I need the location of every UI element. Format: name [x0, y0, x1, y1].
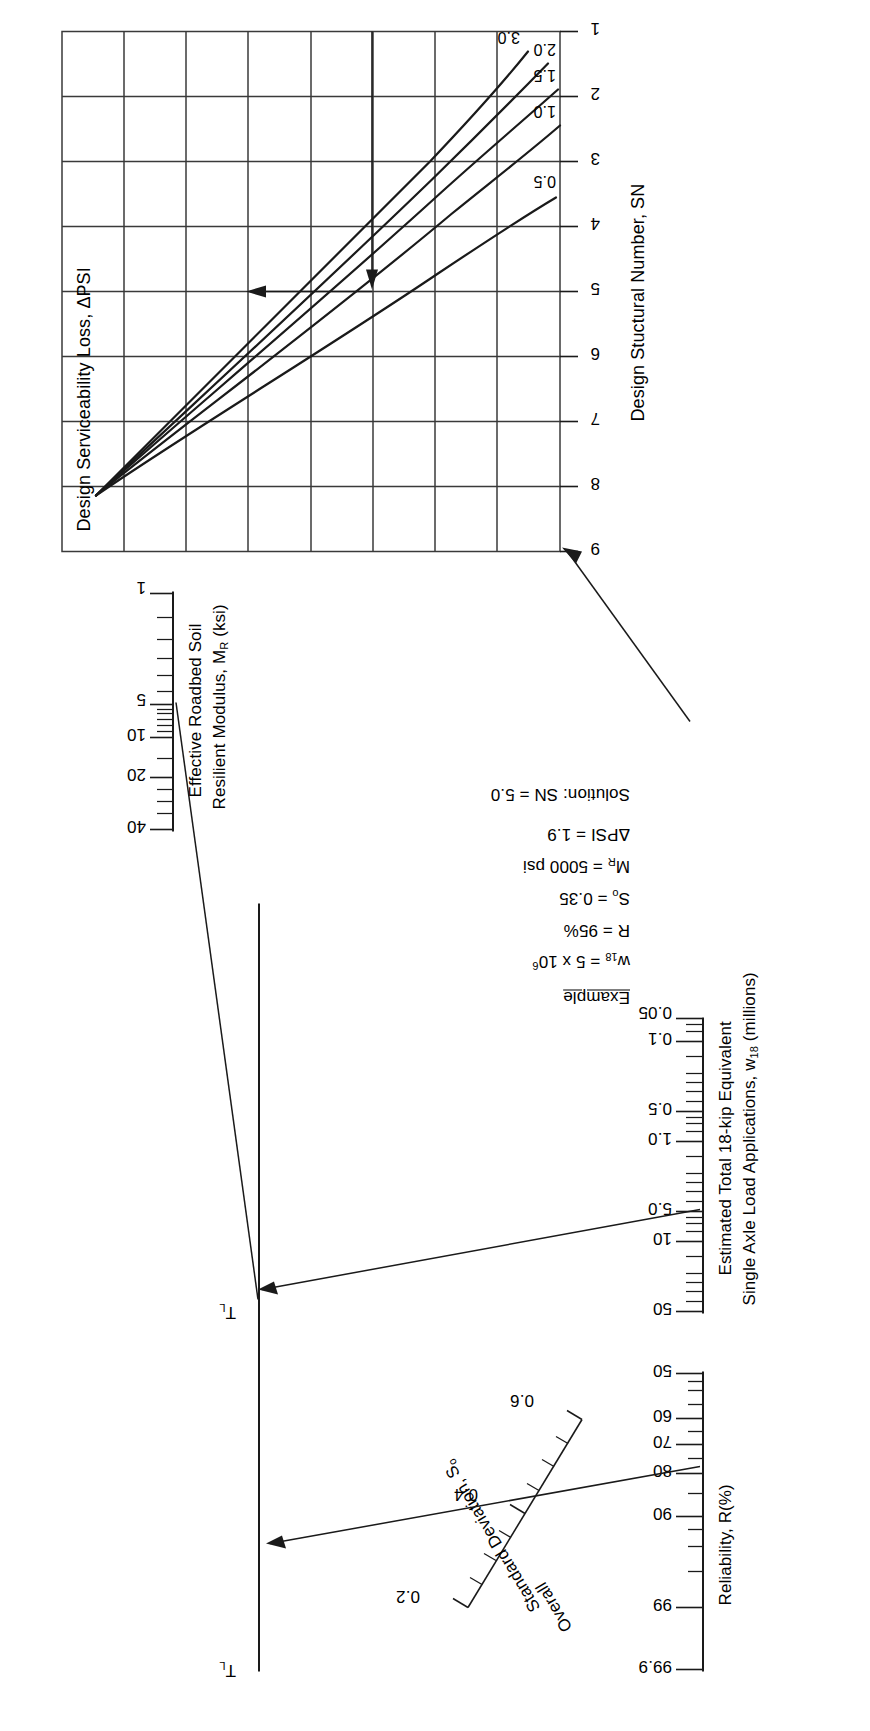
- chart-arrow-left: [366, 269, 378, 289]
- sn-tick-label: 2: [590, 82, 600, 102]
- curve-label-3-0: 3.0: [497, 27, 520, 45]
- curve-label-1-0: 1.0: [533, 101, 556, 119]
- sn-tick-label: 4: [590, 212, 600, 232]
- turning-line-left-axis: [258, 1305, 260, 1671]
- sn-tick-label: 6: [590, 342, 600, 362]
- example-heading: Example: [563, 986, 630, 1006]
- example-line-r: R = 95%: [564, 919, 630, 939]
- chart-arrow-up: [246, 285, 266, 297]
- curve-label-2-0: 2.0: [533, 39, 556, 57]
- example-line-so: So = 0.35: [559, 887, 630, 907]
- curve-2-0: [96, 63, 548, 495]
- sn-tick-label: 3: [590, 147, 600, 167]
- example-line-mr: MR = 5000 psi: [523, 855, 630, 875]
- chart-entry-arrow: [562, 547, 582, 563]
- example-block: Example w18 = 5 x 106 R = 95% So = 0.35 …: [0, 671, 870, 1031]
- sn-tick-label: 8: [590, 472, 600, 492]
- curve-label-0-5: 0.5: [533, 171, 556, 189]
- chart-title: Design Serviceability Loss, ΔPSI: [74, 267, 95, 531]
- sn-tick-label: 9: [590, 537, 600, 557]
- nomograph-figure: 99.9 99 90 80 70 60 50 Reliability, R(%): [0, 0, 870, 1731]
- turning-line-left: TL: [0, 1301, 870, 1731]
- curve-3-0: [96, 51, 528, 495]
- curve-0-5: [96, 197, 556, 495]
- example-line-dpsi: ΔPSI = 1.9: [547, 823, 630, 843]
- sn-tick-label: 5: [590, 277, 600, 297]
- sn-tick-label: 7: [590, 407, 600, 427]
- turning-line-left-label: TL: [219, 1659, 236, 1679]
- curve-1-0: [96, 125, 560, 495]
- main-chart: Design Serviceability Loss, ΔPSI 0.5 1.0…: [0, 1, 870, 591]
- chart-svg: [0, 1, 870, 591]
- example-line-w18: w18 = 5 x 106: [532, 950, 630, 971]
- turning-line-right-label: TL: [219, 1301, 236, 1321]
- sn-axis-label: Design Stuctural Number, SN: [628, 183, 649, 421]
- chart-curves: [96, 51, 560, 495]
- example-solution: Solution: SN = 5.0: [491, 783, 630, 803]
- sn-tick-label: 1: [590, 17, 600, 37]
- curve-label-1-5: 1.5: [533, 65, 556, 83]
